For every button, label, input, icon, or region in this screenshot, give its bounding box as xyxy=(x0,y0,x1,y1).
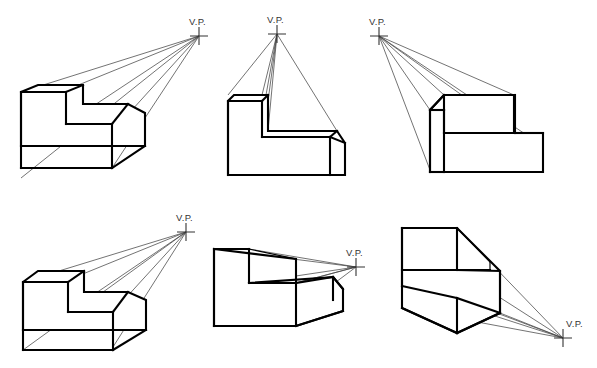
figure-3-solid xyxy=(430,95,543,172)
figure-6-vp-label: V.P. xyxy=(566,318,583,329)
figure-1-solid xyxy=(21,85,145,168)
figure-4-vp-label: V.P. xyxy=(176,212,193,223)
figure-1: V.P. xyxy=(21,16,208,178)
figure-1-vp-label: V.P. xyxy=(189,16,206,27)
figure-6: V.P. xyxy=(402,228,583,347)
figure-5: V.P. xyxy=(214,247,365,326)
figure-5-vp-label: V.P. xyxy=(346,247,363,258)
figure-4-solid xyxy=(23,271,146,350)
figure-2-solid xyxy=(228,95,345,175)
figure-6-vanishing-point: V.P. xyxy=(554,318,583,347)
figure-5-solid xyxy=(214,249,343,326)
figure-2: V.P. xyxy=(228,14,345,175)
figure-5-vanishing-point: V.P. xyxy=(346,247,365,276)
figure-2-vanishing-point: V.P. xyxy=(267,14,286,43)
figure-3: V.P. xyxy=(369,16,543,172)
figure-3-vp-label: V.P. xyxy=(369,16,386,27)
figure-2-vp-label: V.P. xyxy=(267,14,284,25)
figure-4: V.P. xyxy=(23,212,195,350)
figure-6-solid xyxy=(402,228,500,333)
perspective-drawing-sheet: V.P. V.P. xyxy=(0,0,597,368)
